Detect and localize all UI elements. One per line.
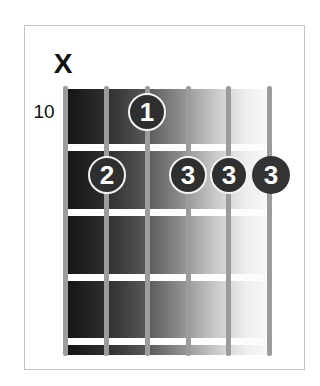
finger-dot-3b: 3 <box>210 156 248 194</box>
string-6 <box>267 86 272 356</box>
fret-line-3 <box>66 274 272 281</box>
fingerboard <box>66 89 272 355</box>
string-1 <box>63 86 68 356</box>
fret-line-4 <box>66 338 272 345</box>
string-2 <box>104 86 109 356</box>
string-5 <box>226 86 231 356</box>
start-fret-label: 10 <box>28 102 60 122</box>
finger-dot-3a: 3 <box>169 156 207 194</box>
fret-line-2 <box>66 209 272 216</box>
fret-line-1 <box>66 144 272 151</box>
finger-dot-3c: 3 <box>252 156 290 194</box>
finger-dot-1: 1 <box>128 93 166 131</box>
string-4 <box>186 86 191 356</box>
muted-string-marker: X <box>50 50 76 78</box>
finger-dot-2: 2 <box>88 156 126 194</box>
